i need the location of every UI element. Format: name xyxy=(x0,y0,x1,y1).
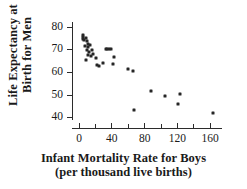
x-axis-title: Infant Mortality Rate for Boys (per thou… xyxy=(0,151,247,179)
x-tick-minor-20 xyxy=(95,124,96,129)
y-axis-title-line-1: Life Expectancy at xyxy=(7,0,21,110)
x-tick-label-120: 120 xyxy=(169,132,186,144)
y-axis-line xyxy=(72,22,73,120)
x-tick-label-0: 0 xyxy=(76,132,82,144)
y-tick-40: 40 xyxy=(67,117,72,118)
data-point xyxy=(94,57,97,60)
data-point xyxy=(112,56,115,59)
x-axis-title-main: Infant Mortality Rate for Boys xyxy=(0,151,247,165)
plot-area: 4050607080 04080120160 xyxy=(72,20,227,122)
x-tick-40: 40 xyxy=(111,123,112,129)
data-point xyxy=(179,92,182,95)
data-point xyxy=(89,43,92,46)
y-tick-70: 70 xyxy=(67,49,72,50)
x-tick-120: 120 xyxy=(177,123,178,129)
x-tick-minor-140 xyxy=(193,124,194,129)
y-tick-label-50: 50 xyxy=(52,88,64,100)
y-tick-60: 60 xyxy=(67,72,72,73)
data-point xyxy=(92,52,95,55)
x-tick-160: 160 xyxy=(210,123,211,129)
y-tick-80: 80 xyxy=(67,27,72,28)
x-tick-0: 0 xyxy=(79,123,80,129)
y-tick-label-60: 60 xyxy=(52,65,64,77)
x-tick-label-160: 160 xyxy=(202,132,219,144)
y-axis-title: Life Expectancy at Birth for Men xyxy=(7,0,41,110)
data-point xyxy=(98,65,101,68)
y-tick-label-70: 70 xyxy=(52,42,64,54)
data-point xyxy=(211,111,214,114)
x-tick-80: 80 xyxy=(144,123,145,129)
data-point xyxy=(164,94,167,97)
data-point xyxy=(109,48,112,51)
y-tick-label-40: 40 xyxy=(52,110,64,122)
data-point xyxy=(84,58,87,61)
y-tick-label-80: 80 xyxy=(52,20,64,32)
x-tick-label-40: 40 xyxy=(106,132,118,144)
x-tick-minor-60 xyxy=(128,124,129,129)
x-tick-label-80: 80 xyxy=(139,132,151,144)
x-axis-title-units: (per thousand live births) xyxy=(0,165,247,179)
data-point xyxy=(111,63,114,66)
y-tick-50: 50 xyxy=(67,95,72,96)
data-point xyxy=(131,69,134,72)
scatter-plot-figure: Life Expectancy at Birth for Men 4050607… xyxy=(0,0,247,189)
y-axis-title-line-2: Birth for Men xyxy=(21,0,35,110)
data-point xyxy=(149,90,152,93)
data-point xyxy=(126,67,129,70)
data-point xyxy=(176,102,179,105)
data-point xyxy=(133,108,136,111)
data-point xyxy=(102,61,105,64)
x-tick-minor-100 xyxy=(161,124,162,129)
